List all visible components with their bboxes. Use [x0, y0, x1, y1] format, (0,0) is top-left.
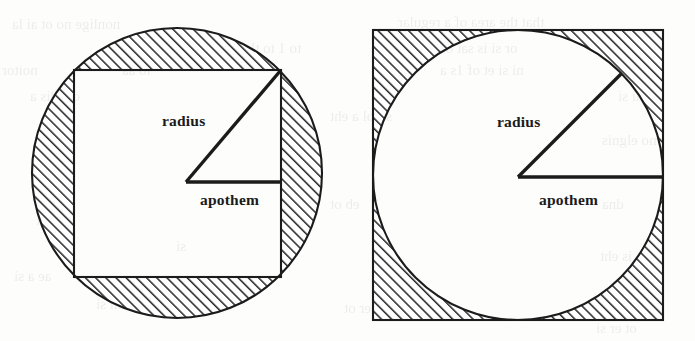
figure-page: nonlige no ot ai lathat the area of a re…: [0, 0, 695, 341]
geometry-figure: radius apothem radius apothem: [0, 0, 695, 341]
right-radius-label: radius: [497, 113, 540, 130]
diagram-inscribed-circle: radius apothem: [0, 0, 695, 341]
right-apothem-label: apothem: [539, 191, 598, 208]
right-hatched-region: [0, 0, 695, 341]
